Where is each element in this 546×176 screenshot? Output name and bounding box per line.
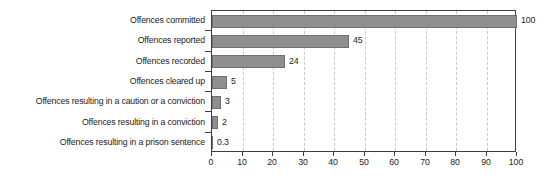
y-axis-category-labels: Offences committed Offences reported Off… [0,10,209,152]
bar-row [212,35,515,48]
y-axis-label-6: Offences resulting in a prison sentence [10,137,205,147]
bar-row [212,96,515,109]
x-axis-tick-label-50: 50 [359,157,369,168]
x-axis-tick-50 [364,152,365,156]
x-axis-tick-10 [242,152,243,156]
bar-2 [212,55,285,68]
x-axis-tick-label-60: 60 [389,157,399,168]
bar-0 [212,15,517,28]
x-axis-tick-90 [486,152,487,156]
y-axis-label-2: Offences recorded [10,56,205,66]
bar-row [212,116,515,129]
x-axis-tick-label-10: 10 [237,157,247,168]
x-axis-tick-label-40: 40 [328,157,338,168]
x-axis-tick-80 [455,152,456,156]
bar-series [212,11,515,151]
x-axis-tick-40 [333,152,334,156]
bar-5 [212,116,218,129]
x-axis-tick-0 [211,152,212,156]
y-axis-label-0: Offences committed [10,15,205,25]
x-axis-tick-100 [516,152,517,156]
plot-area [211,10,516,152]
bar-row [212,55,515,68]
x-axis-tick-label-30: 30 [298,157,308,168]
bar-1 [212,35,349,48]
x-axis: 0102030405060708090100 [211,152,517,176]
x-axis-tick-label-20: 20 [267,157,277,168]
x-axis-tick-20 [272,152,273,156]
bar-4 [212,96,221,109]
x-axis-tick-60 [394,152,395,156]
x-axis-tick-label-90: 90 [481,157,491,168]
y-axis-label-1: Offences reported [10,35,205,45]
x-axis-tick-label-100: 100 [509,157,524,168]
x-axis-tick-30 [303,152,304,156]
x-axis-tick-70 [425,152,426,156]
x-axis-tick-label-80: 80 [450,157,460,168]
y-axis-label-3: Offences cleared up [10,76,205,86]
bar-3 [212,76,227,89]
bar-6 [212,136,213,149]
bar-row [212,76,515,89]
bar-row [212,15,515,28]
x-axis-tick-label-0: 0 [209,157,214,168]
bar-chart: Offences committed Offences reported Off… [0,0,546,176]
y-axis-label-5: Offences resulting in a conviction [10,117,205,127]
bar-row [212,136,515,149]
x-axis-tick-label-70: 70 [420,157,430,168]
data-label-0: 100 [521,15,535,25]
y-axis-label-4: Offences resulting in a caution or a con… [10,96,205,106]
